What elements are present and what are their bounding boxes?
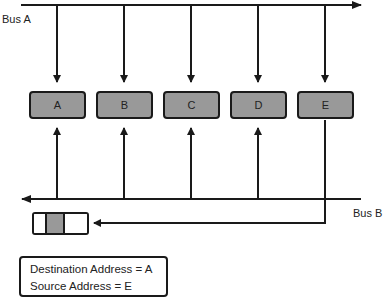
frame-segment-address (45, 214, 65, 233)
bus-b-label: Bus B (353, 207, 382, 219)
node-d: D (230, 91, 287, 119)
bus-a-label: Bus A (2, 13, 31, 25)
data-frame (32, 212, 89, 235)
destination-address-text: Destination Address = A (30, 261, 166, 278)
node-e-label: E (322, 99, 329, 111)
node-b: B (96, 91, 153, 119)
transmit-path-e (94, 120, 325, 223)
node-c-label: C (188, 99, 196, 111)
source-address-text: Source Address = E (30, 278, 166, 295)
node-a: A (29, 91, 86, 119)
frame-segment-header (34, 214, 45, 233)
node-a-label: A (54, 99, 61, 111)
frame-info-box: Destination Address = A Source Address =… (19, 256, 168, 297)
frame-segment-payload (65, 214, 87, 233)
node-e: E (297, 91, 354, 119)
node-c: C (163, 91, 220, 119)
node-b-label: B (121, 99, 128, 111)
node-d-label: D (255, 99, 263, 111)
